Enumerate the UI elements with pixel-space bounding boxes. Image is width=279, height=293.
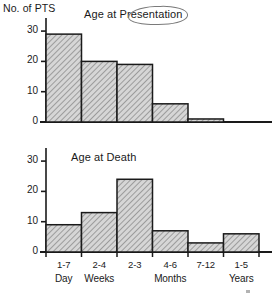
bar (188, 243, 224, 252)
y-tick-label: 30 (27, 24, 38, 35)
y-tick-label: 0 (33, 245, 38, 256)
bar (82, 213, 118, 252)
chart-age-at-presentation: No. of PTS Age at Presentation 0102030 (0, 0, 279, 141)
chart-age-at-death: Age at Death 01020301-72-42-34-67-121-5D… (0, 140, 279, 281)
y-tick-label: 20 (27, 184, 38, 195)
plot-area-top (0, 0, 279, 141)
x-tick-label-group: Weeks (69, 273, 129, 284)
bar (82, 61, 118, 122)
y-tick-label: 10 (27, 215, 38, 226)
bar (153, 104, 189, 122)
bar (117, 179, 153, 252)
bar (153, 231, 189, 252)
y-tick-label: 10 (27, 85, 38, 96)
bar (224, 234, 260, 252)
x-tick-label-range: 1-5 (216, 259, 266, 270)
y-tick-label: 20 (27, 54, 38, 65)
x-tick-label-group: Months (140, 273, 200, 284)
bar (117, 64, 153, 122)
bar (46, 225, 82, 252)
bar (46, 34, 82, 122)
bar (188, 119, 224, 122)
x-tick-label-group: Years (211, 273, 271, 284)
y-tick-label: 30 (27, 154, 38, 165)
y-tick-label: 0 (33, 115, 38, 126)
